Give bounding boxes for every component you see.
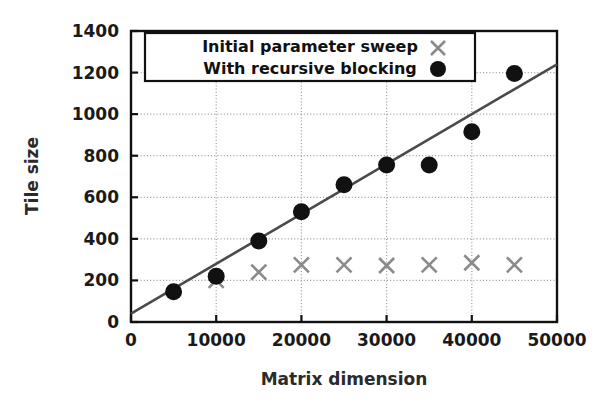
ytick-label: 200 bbox=[84, 270, 120, 290]
scatter-plot: 01000020000300004000050000 0200400600800… bbox=[0, 0, 612, 403]
ytick-label: 800 bbox=[84, 146, 120, 166]
data-point-x-marker bbox=[507, 257, 522, 272]
data-point-circle-marker bbox=[463, 123, 480, 140]
legend-item-label-with-recursive-blocking: With recursive blocking bbox=[203, 59, 417, 78]
x-axis-tick-labels: 01000020000300004000050000 bbox=[125, 330, 587, 350]
data-point-x-marker bbox=[294, 257, 309, 272]
data-point-circle-marker bbox=[208, 268, 225, 285]
data-point-circle-marker bbox=[250, 232, 267, 249]
series-initial-parameter-sweep bbox=[209, 255, 522, 288]
legend-item-label-initial-parameter-sweep: Initial parameter sweep bbox=[202, 37, 418, 56]
xtick-label: 0 bbox=[125, 330, 137, 350]
legend-marker-circle-icon bbox=[430, 61, 446, 77]
data-point-circle-marker bbox=[421, 157, 438, 174]
data-point-circle-marker bbox=[293, 203, 310, 220]
xtick-label: 10000 bbox=[187, 330, 246, 350]
xtick-label: 50000 bbox=[527, 330, 586, 350]
ytick-label: 1000 bbox=[72, 104, 119, 124]
data-point-x-marker bbox=[379, 258, 394, 273]
ytick-label: 600 bbox=[84, 187, 120, 207]
xtick-label: 40000 bbox=[442, 330, 501, 350]
xtick-label: 30000 bbox=[357, 330, 416, 350]
y-axis-tick-labels: 0200400600800100012001400 bbox=[72, 21, 119, 332]
data-point-x-marker bbox=[337, 257, 352, 272]
ytick-label: 400 bbox=[84, 229, 120, 249]
x-axis-label: Matrix dimension bbox=[261, 369, 428, 389]
y-axis-label: Tile size bbox=[22, 137, 42, 215]
chart-figure: 01000020000300004000050000 0200400600800… bbox=[0, 0, 612, 403]
chart-legend[interactable]: Initial parameter sweep With recursive b… bbox=[145, 33, 475, 81]
data-point-circle-marker bbox=[336, 176, 353, 193]
data-point-circle-marker bbox=[378, 157, 395, 174]
data-point-circle-marker bbox=[506, 65, 523, 82]
data-point-circle-marker bbox=[165, 283, 182, 300]
data-point-x-marker bbox=[422, 257, 437, 272]
ytick-label: 1400 bbox=[72, 21, 119, 41]
ytick-label: 1200 bbox=[72, 63, 119, 83]
data-point-x-marker bbox=[251, 265, 266, 280]
xtick-label: 20000 bbox=[272, 330, 331, 350]
ytick-label: 0 bbox=[107, 312, 119, 332]
